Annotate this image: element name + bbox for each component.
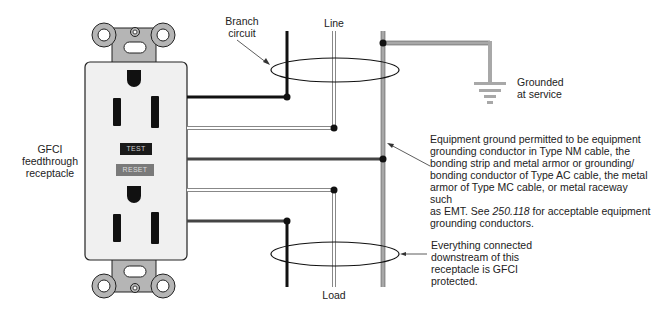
branch-circuit-label-line1: Branch xyxy=(212,15,272,27)
gfci-label-line3: receptacle xyxy=(14,167,86,179)
note-line: Everything connected xyxy=(431,239,591,251)
note-line: receptacle is GFCI xyxy=(431,263,591,275)
grounded-at-service-label: Grounded at service xyxy=(517,76,564,100)
top-mounting-strap xyxy=(92,23,175,64)
grounded-label-line2: at service xyxy=(517,88,564,100)
line-label: Line xyxy=(314,17,354,29)
equipment-ground-note: Equipment ground permitted to be equipme… xyxy=(430,133,652,229)
load-label: Load xyxy=(314,289,354,301)
branch-circuit-label-line2: circuit xyxy=(212,27,272,39)
note-line: bonding conductor of Type AC cable, the … xyxy=(430,169,652,181)
gfci-receptacle-label: GFCI feedthrough receptacle xyxy=(14,143,86,179)
note-line: grounding conductors. xyxy=(430,217,652,229)
note-line: protected. xyxy=(431,275,591,287)
note-line: armor of Type MC cable, or metal raceway… xyxy=(430,181,652,205)
bottom-mounting-strap xyxy=(92,258,175,298)
note-line: grounding conductor in Type NM cable, th… xyxy=(430,145,652,157)
ground-symbol-icon xyxy=(474,82,506,104)
grounded-label-line1: Grounded xyxy=(517,76,564,88)
note-line: as EMT. See 250.118 for acceptable equip… xyxy=(430,205,652,217)
gfci-label-line2: feedthrough xyxy=(14,155,86,167)
gfci-label-line1: GFCI xyxy=(14,143,86,155)
note-line: downstream of this xyxy=(431,251,591,263)
reset-button[interactable]: RESET xyxy=(116,164,154,176)
note-text: as EMT. See xyxy=(430,205,492,217)
test-button[interactable]: TEST xyxy=(120,143,152,155)
receptacle-body xyxy=(85,62,187,260)
note-line: Equipment ground permitted to be equipme… xyxy=(430,133,652,145)
code-reference: 250.118 xyxy=(492,205,529,217)
downstream-protection-note: Everything connected downstream of this … xyxy=(431,239,591,287)
note-line: bonding strip and metal armor or groundi… xyxy=(430,157,652,169)
branch-circuit-label: Branch circuit xyxy=(212,15,272,39)
note-text: for acceptable equipment xyxy=(530,205,651,217)
